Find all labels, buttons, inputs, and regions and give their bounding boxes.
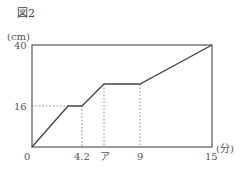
chart: (cm) 40 16 0 4.2 ア 9 15 (分) [0,0,249,178]
data-line [32,45,212,147]
x-tick-a: ア [100,151,110,162]
x-unit-label: (分) [216,143,234,154]
y-tick-40: 40 [14,40,27,51]
x-tick-9: 9 [137,151,143,162]
x-tick-4-2: 4.2 [74,151,90,162]
y-tick-16: 16 [14,101,27,112]
x-tick-0: 0 [24,151,30,162]
